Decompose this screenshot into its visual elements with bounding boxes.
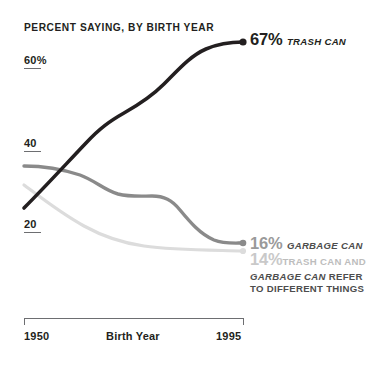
x-axis-bracket	[24, 318, 244, 325]
y-axis-tick-40-rule	[24, 151, 41, 152]
chart-container: PERCENT SAYING, BY BIRTH YEAR 60% 40 20 …	[0, 0, 385, 367]
annotation-different-things-line3: TO DIFFERENT THINGS	[250, 283, 366, 294]
x-axis-tick-end: 1995	[216, 330, 241, 342]
y-axis-tick-40: 40	[24, 137, 41, 152]
endpoint-dot-garbage	[240, 240, 247, 247]
annotation-trash-can-label: TRASH CAN	[287, 36, 346, 47]
annotation-different-things-line1-italic: TRASH CAN	[282, 256, 341, 267]
x-axis-caption: Birth Year	[106, 330, 160, 342]
x-axis-tick-start: 1950	[24, 330, 49, 342]
y-axis-tick-20: 20	[24, 218, 41, 233]
line-trash-can	[24, 42, 243, 208]
y-axis-tick-60: 60%	[24, 54, 47, 69]
plot-area	[0, 0, 385, 367]
annotation-trash-can-percent: 67%	[250, 30, 282, 48]
annotation-different-things-line2: GARBAGE CAN REFER	[250, 271, 366, 282]
y-axis-tick-20-label: 20	[24, 218, 37, 230]
y-axis-tick-20-rule	[24, 232, 41, 233]
annotation-different-things-percent: 14%	[250, 250, 282, 268]
line-different-things	[24, 185, 243, 251]
annotation-trash-can: 67% TRASH CAN	[250, 30, 346, 50]
annotation-different-things-line2-plain: REFER	[326, 271, 363, 282]
annotation-different-things-line1-plain: AND	[342, 256, 366, 267]
endpoint-dot-trash	[239, 38, 246, 45]
annotation-different-things: 14%TRASH CAN AND GARBAGE CAN REFER TO DI…	[250, 250, 366, 295]
y-axis-tick-60-rule	[24, 68, 41, 69]
chart-title: PERCENT SAYING, BY BIRTH YEAR	[24, 22, 214, 33]
annotation-different-things-line2-italic: GARBAGE CAN	[250, 271, 326, 282]
line-garbage-can	[24, 166, 243, 243]
y-axis-tick-40-label: 40	[24, 137, 37, 149]
endpoint-dot-different	[240, 248, 246, 254]
y-axis-tick-60-label: 60%	[24, 54, 47, 66]
